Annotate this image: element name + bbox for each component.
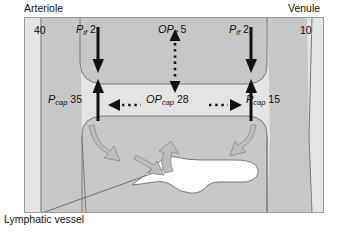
venule-vessel xyxy=(267,17,312,213)
arteriole-title: Arteriole xyxy=(24,3,63,14)
label-pcap-left-subscript: cap xyxy=(55,98,67,107)
label-pif-left-value: 2 xyxy=(87,23,96,35)
label-pcap-right: Pcap 15 xyxy=(246,94,280,105)
label-pif-left-subscript: if xyxy=(83,28,87,37)
label-opcap-middle-value: 28 xyxy=(174,93,189,105)
venule-title: Venule xyxy=(288,3,320,14)
label-opif-middle-value: 5 xyxy=(178,23,187,35)
arteriole-pressure-value: 40 xyxy=(34,25,46,36)
figure-canvas: Arteriole Venule 40 10 Pif 2 Pcap 35 OPi… xyxy=(0,0,348,233)
label-pcap-right-value: 15 xyxy=(265,93,280,105)
label-pcap-left-value: 35 xyxy=(67,93,82,105)
lymphatic-vessel-label: Lymphatic vessel xyxy=(4,214,84,225)
label-opif-middle-subscript: if xyxy=(174,28,178,37)
label-pif-left: Pif 2 xyxy=(76,24,96,35)
label-opcap-middle-symbol: OP xyxy=(146,93,162,105)
label-pif-right-subscript: if xyxy=(236,28,240,37)
label-pcap-right-subscript: cap xyxy=(253,98,265,107)
arteriole-vessel xyxy=(41,17,86,213)
label-opif-middle-symbol: OP xyxy=(158,23,174,35)
label-pcap-left: Pcap 35 xyxy=(48,94,82,105)
label-opif-middle: OPif 5 xyxy=(158,24,186,35)
venule-pressure-value: 10 xyxy=(300,25,312,36)
label-opcap-middle-subscript: cap xyxy=(162,98,174,107)
label-pif-right-value: 2 xyxy=(240,23,249,35)
capillary-bed-diagram xyxy=(24,17,324,213)
label-opcap-middle: OPcap 28 xyxy=(146,94,189,105)
label-pif-right: Pif 2 xyxy=(229,24,249,35)
